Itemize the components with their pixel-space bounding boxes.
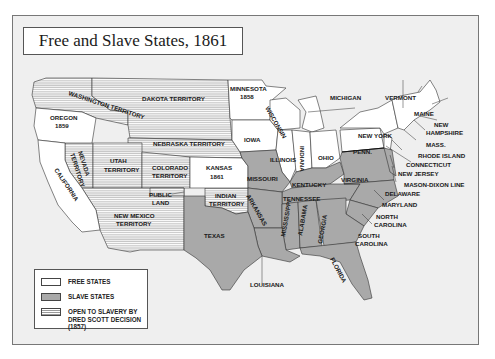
legend-label-open: OPEN TO SLAVERY BY DRED SCOTT DECISION (…	[68, 308, 147, 331]
michigan	[298, 96, 324, 132]
label-utah-1: UTAH	[110, 157, 127, 164]
label-kansas-year: 1861	[210, 173, 224, 180]
legend: FREE STATES SLAVE STATES OPEN TO SLAVERY…	[34, 269, 148, 329]
label-new-hampshire-2: HAMPSHIRE	[426, 129, 463, 136]
label-delaware: DELAWARE	[385, 190, 420, 197]
label-dakota: DAKOTA TERRITORY	[142, 95, 206, 102]
label-indiana: INDIANA	[299, 146, 306, 172]
label-ohio: OHIO	[318, 154, 334, 161]
label-colorado-2: TERRITORY	[152, 172, 188, 179]
legend-item-open: OPEN TO SLAVERY BY DRED SCOTT DECISION (…	[41, 308, 147, 331]
label-public-land-2: LAND	[152, 199, 170, 206]
label-new-york: NEW YORK	[358, 132, 392, 139]
label-public-land-1: PUBLIC	[149, 191, 173, 198]
label-mason-dixon: MASON-DIXON LINE	[404, 181, 465, 188]
label-south-carolina-1: SOUTH	[358, 232, 380, 239]
map-title: Free and Slave States, 1861	[24, 31, 242, 51]
label-minnesota-year: 1858	[240, 93, 254, 100]
legend-item-slave: SLAVE STATES	[41, 293, 114, 301]
free-states-swatch	[41, 278, 61, 286]
label-maine: MAINE	[414, 110, 434, 117]
label-new-mexico-2: TERRITORY	[116, 220, 152, 227]
label-kentucky: KENTUCKY	[292, 181, 327, 188]
label-oregon: OREGON	[50, 114, 78, 121]
label-iowa: IOWA	[244, 136, 261, 143]
label-indian-1: INDIAN	[215, 192, 237, 199]
label-missouri: MISSOURI	[247, 175, 278, 182]
label-louisiana: LOUISIANA	[250, 281, 285, 288]
label-illinois: ILLINOIS	[270, 156, 296, 163]
label-connecticut: CONNECTICUT	[406, 161, 451, 168]
label-mass: MASS.	[426, 141, 446, 148]
label-north-carolina-2: CAROLINA	[374, 221, 407, 228]
slave-states-swatch	[41, 293, 61, 301]
label-south-carolina-2: CAROLINA	[355, 240, 388, 247]
map-title-box: Free and Slave States, 1861	[23, 27, 243, 55]
label-north-carolina-1: NORTH	[376, 213, 399, 220]
legend-item-free: FREE STATES	[41, 278, 110, 286]
legend-label-slave: SLAVE STATES	[68, 293, 114, 301]
ohio	[310, 130, 340, 168]
label-penn: PENN.	[353, 148, 372, 155]
label-rhode-island: RHODE ISLAND	[418, 152, 466, 159]
new-england	[392, 80, 440, 130]
label-texas: TEXAS	[204, 232, 225, 239]
label-indian-2: TERRITORY	[209, 200, 245, 207]
label-virginia: VIRGINIA	[341, 176, 369, 183]
label-vermont: VERMONT	[385, 94, 416, 101]
label-maryland: MARYLAND	[382, 201, 418, 208]
label-michigan: MICHIGAN	[330, 94, 362, 101]
label-oregon-year: 1859	[55, 122, 69, 129]
label-utah-2: TERRITORY	[104, 166, 140, 173]
label-nebraska: NEBRASKA TERRITORY	[153, 140, 226, 147]
open-to-slavery-swatch	[41, 308, 61, 316]
label-kansas: KANSAS	[206, 164, 232, 171]
label-new-jersey: NEW JERSEY	[398, 170, 439, 177]
label-minnesota: MINNESOTA	[230, 85, 267, 92]
label-new-hampshire-1: NEW	[434, 121, 449, 128]
label-new-mexico-1: NEW MEXICO	[114, 212, 155, 219]
label-colorado-1: COLORADO	[152, 164, 188, 171]
legend-label-free: FREE STATES	[68, 278, 110, 286]
